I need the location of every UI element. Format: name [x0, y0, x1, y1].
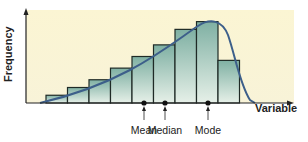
median-label: Median — [148, 124, 182, 136]
mode-arrow-icon — [206, 106, 210, 111]
histogram-bar — [197, 22, 219, 103]
x-axis-label: Variable — [255, 102, 297, 114]
mode-label: Mode — [195, 124, 221, 136]
histogram-bar — [111, 68, 133, 103]
y-axis-label: Frequency — [2, 26, 14, 82]
mean-dot — [141, 100, 146, 105]
skewed-distribution-chart — [0, 0, 308, 142]
mode-dot — [205, 100, 210, 105]
median-dot — [162, 100, 167, 105]
median-arrow-icon — [163, 106, 167, 111]
mean-arrow-icon — [142, 106, 146, 111]
